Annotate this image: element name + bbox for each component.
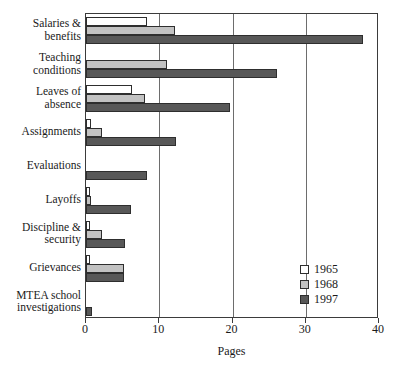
bar-group — [86, 116, 377, 150]
bar-chart: Salaries &benefitsTeachingconditionsLeav… — [0, 0, 396, 376]
bar-1997 — [86, 103, 230, 112]
bar-1997 — [86, 171, 147, 180]
x-tick-label: 20 — [212, 322, 252, 337]
category-label-line: benefits — [0, 30, 81, 43]
legend-swatch-icon — [300, 280, 309, 289]
category-label: Evaluations — [0, 159, 81, 172]
bar-1997 — [86, 35, 363, 44]
bar-1997 — [86, 69, 277, 78]
x-tick-label: 40 — [358, 322, 396, 337]
category-label: Layoffs — [0, 193, 81, 206]
bar-1968 — [86, 230, 102, 239]
category-label-line: Layoffs — [0, 193, 81, 206]
bar-1968 — [86, 26, 175, 35]
bar-1997 — [86, 137, 176, 146]
bar-1965 — [86, 85, 132, 94]
legend-label: 1968 — [314, 277, 338, 292]
x-tick-label: 10 — [138, 322, 178, 337]
category-label: Leaves ofabsence — [0, 85, 81, 110]
bar-1965 — [86, 17, 147, 26]
bar-1968 — [86, 196, 91, 205]
bar-group — [86, 48, 377, 82]
legend-swatch-icon — [300, 295, 309, 304]
bar-1965 — [86, 119, 91, 128]
category-label-line: Discipline & — [0, 221, 81, 234]
legend: 196519681997 — [300, 262, 338, 307]
category-label-line: Grievances — [0, 261, 81, 274]
bar-1965 — [86, 255, 90, 264]
legend-entry-1968: 1968 — [300, 277, 338, 292]
legend-entry-1965: 1965 — [300, 262, 338, 277]
bar-1968 — [86, 60, 167, 69]
bar-group — [86, 217, 377, 251]
bar-1965 — [86, 221, 90, 230]
legend-label: 1965 — [314, 262, 338, 277]
legend-entry-1997: 1997 — [300, 292, 338, 307]
category-label-line: Teaching — [0, 51, 81, 64]
category-label-line: Evaluations — [0, 159, 81, 172]
bar-group — [86, 82, 377, 116]
legend-swatch-icon — [300, 265, 309, 274]
category-label: Salaries &benefits — [0, 17, 81, 42]
category-label: Grievances — [0, 261, 81, 274]
x-tick-label: 30 — [285, 322, 325, 337]
bar-1997 — [86, 273, 124, 282]
category-axis-labels: Salaries &benefitsTeachingconditionsLeav… — [0, 13, 81, 318]
category-label: Teachingconditions — [0, 51, 81, 76]
bar-group — [86, 183, 377, 217]
category-label-line: investigations — [0, 301, 81, 314]
category-label-line: Leaves of — [0, 85, 81, 98]
category-label-line: conditions — [0, 64, 81, 77]
bar-1997 — [86, 307, 92, 316]
category-label-line: security — [0, 233, 81, 246]
category-label-line: Salaries & — [0, 17, 81, 30]
bar-1968 — [86, 94, 145, 103]
bar-1968 — [86, 264, 124, 273]
category-label-line: absence — [0, 98, 81, 111]
legend-label: 1997 — [314, 292, 338, 307]
category-label-line: MTEA school — [0, 289, 81, 302]
category-label: MTEA schoolinvestigations — [0, 289, 81, 314]
category-label-line: Assignments — [0, 125, 81, 138]
bar-group — [86, 14, 377, 48]
bar-1965 — [86, 187, 90, 196]
x-tick-label: 0 — [65, 322, 105, 337]
bar-1997 — [86, 239, 125, 248]
category-label: Discipline &security — [0, 221, 81, 246]
bar-1997 — [86, 205, 131, 214]
x-axis-title: Pages — [85, 344, 378, 359]
bar-1968 — [86, 128, 102, 137]
bar-group — [86, 150, 377, 184]
category-label: Assignments — [0, 125, 81, 138]
